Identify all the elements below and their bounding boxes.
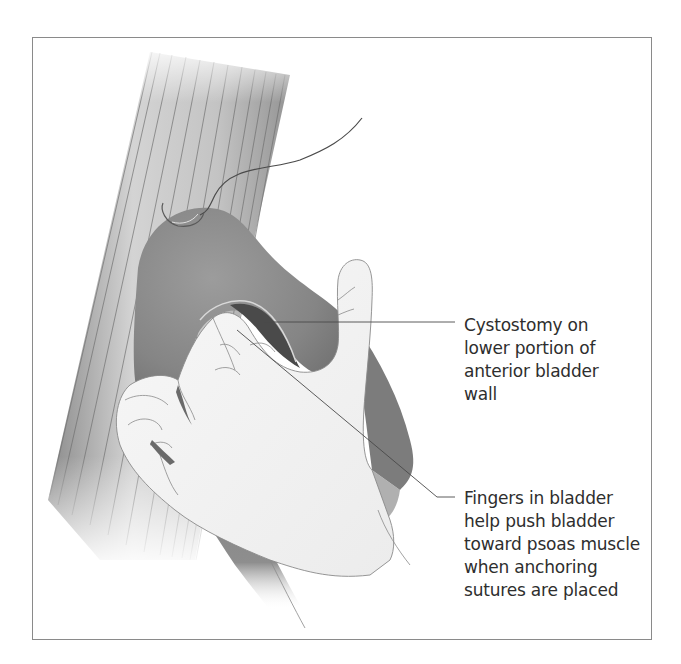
label-line: help push bladder xyxy=(464,510,640,533)
label-cystostomy: Cystostomy on lower portion of anterior … xyxy=(464,314,599,406)
label-line: wall xyxy=(464,383,599,406)
label-line: when anchoring xyxy=(464,556,640,579)
label-line: sutures are placed xyxy=(464,579,640,602)
label-line: lower portion of xyxy=(464,337,599,360)
label-line: Fingers in bladder xyxy=(464,487,640,510)
label-line: toward psoas muscle xyxy=(464,533,640,556)
label-line: anterior bladder xyxy=(464,360,599,383)
label-fingers-in-bladder: Fingers in bladder help push bladder tow… xyxy=(464,487,640,602)
label-line: Cystostomy on xyxy=(464,314,599,337)
